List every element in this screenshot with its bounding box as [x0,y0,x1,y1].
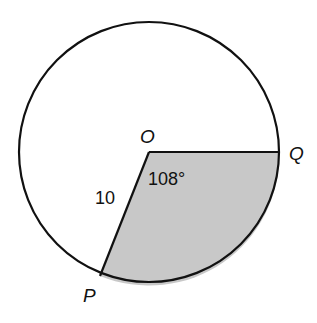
label-angle: 108° [148,169,185,189]
shaded-sector [100,152,279,286]
circle-diagram: O Q P 10 108° [0,0,317,323]
label-o: O [140,126,155,147]
label-p: P [83,285,96,306]
label-radius: 10 [95,188,115,208]
label-q: Q [289,143,304,164]
